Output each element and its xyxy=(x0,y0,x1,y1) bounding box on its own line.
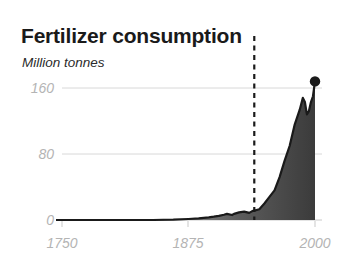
endpoint-marker-icon xyxy=(310,76,320,86)
y-tick-80: 80 xyxy=(38,146,54,162)
chart-figure: Fertilizer consumption Million tonnes 16… xyxy=(0,0,364,274)
y-axis-labels: 160 80 0 xyxy=(31,80,55,228)
x-tick-1875: 1875 xyxy=(172,235,203,251)
y-tick-160: 160 xyxy=(31,80,55,96)
chart-plot-area: 160 80 0 1750 1875 2000 xyxy=(0,0,364,274)
series-area-fill xyxy=(11,81,315,220)
x-axis-labels: 1750 1875 2000 xyxy=(46,235,330,251)
x-tick-1750: 1750 xyxy=(46,235,77,251)
y-tick-0: 0 xyxy=(46,212,54,228)
x-axis-ticks xyxy=(62,221,315,227)
x-tick-2000: 2000 xyxy=(298,235,330,251)
